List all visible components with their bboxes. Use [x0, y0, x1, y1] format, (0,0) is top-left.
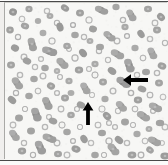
- grain-speck: [142, 38, 143, 39]
- grain-speck: [123, 11, 125, 13]
- grain-speck: [18, 61, 19, 62]
- arrow-left: [119, 72, 149, 88]
- blood-cell: [146, 126, 153, 132]
- grain-speck: [155, 15, 157, 17]
- grain-speck: [49, 33, 51, 35]
- grain-speck: [93, 68, 95, 70]
- grain-speck: [33, 72, 34, 73]
- grain-speck: [123, 129, 125, 131]
- grain-speck: [107, 155, 108, 156]
- ring-cell: [92, 72, 99, 79]
- grain-speck: [50, 144, 52, 146]
- grain-speck: [50, 61, 52, 63]
- grain-speck: [137, 94, 138, 95]
- grain-speck: [28, 70, 29, 71]
- grain-speck: [88, 65, 89, 66]
- grain-speck: [100, 101, 101, 102]
- grain-speck: [136, 39, 137, 40]
- grain-speck: [164, 37, 166, 39]
- grain-speck: [114, 143, 115, 144]
- grain-speck: [120, 32, 122, 34]
- grain-speck: [27, 83, 28, 84]
- ring-cell: [44, 8, 50, 14]
- grain-speck: [51, 126, 53, 128]
- ring-cell: [142, 138, 148, 144]
- grain-speck: [5, 89, 7, 91]
- ring-cell: [124, 33, 130, 39]
- ring-cell: [124, 140, 130, 146]
- grain-speck: [79, 156, 80, 157]
- blood-cell: [76, 10, 84, 17]
- grain-speck: [142, 27, 143, 28]
- grain-speck: [12, 56, 14, 58]
- grain-speck: [152, 123, 154, 125]
- scan-margin-bottom: [0, 161, 168, 165]
- grain-speck: [90, 11, 92, 13]
- blood-cell: [101, 96, 108, 102]
- grain-speck: [54, 127, 56, 129]
- ring-cell: [106, 138, 113, 145]
- ring-cell: [138, 152, 144, 158]
- grain-speck: [138, 58, 139, 59]
- grain-speck: [14, 104, 16, 106]
- grain-speck: [155, 12, 156, 13]
- grain-speck: [115, 107, 117, 109]
- grain-speck: [33, 22, 34, 23]
- grain-speck: [106, 44, 108, 46]
- ring-cell: [105, 57, 111, 63]
- grain-speck: [22, 156, 24, 158]
- grain-speck: [141, 47, 143, 49]
- grain-speck: [82, 145, 83, 146]
- grain-speck: [151, 33, 153, 35]
- grain-speck: [120, 68, 121, 69]
- grain-speck: [80, 63, 81, 64]
- grain-speck: [76, 65, 77, 66]
- blood-cell: [25, 6, 32, 12]
- grain-speck: [80, 148, 82, 150]
- grain-speck: [77, 83, 78, 84]
- grain-speck: [69, 19, 70, 20]
- grain-speck: [74, 118, 76, 120]
- grain-speck: [40, 6, 42, 8]
- grain-speck: [88, 77, 89, 78]
- blood-cell: [54, 68, 60, 74]
- grain-speck: [14, 151, 15, 152]
- grain-speck: [98, 91, 99, 92]
- grain-speck: [151, 118, 153, 120]
- grain-speck: [60, 145, 62, 147]
- grain-speck: [29, 35, 30, 36]
- grain-speck: [7, 13, 8, 14]
- grain-speck: [56, 11, 57, 12]
- grain-speck: [38, 85, 40, 87]
- ring-cell: [42, 124, 48, 130]
- grain-speck: [98, 148, 100, 150]
- grain-speck: [143, 65, 144, 66]
- blood-cell: [30, 76, 38, 82]
- grain-speck: [49, 93, 51, 95]
- grain-speck: [86, 45, 88, 47]
- blood-cell: [156, 120, 164, 126]
- grain-speck: [157, 113, 159, 115]
- grain-speck: [76, 77, 78, 79]
- grain-speck: [145, 110, 146, 111]
- grain-speck: [38, 95, 39, 96]
- ring-cell: [35, 88, 41, 94]
- ring-cell: [120, 17, 126, 23]
- blood-cell: [75, 67, 83, 74]
- grain-speck: [123, 9, 124, 10]
- grain-speck: [87, 81, 88, 82]
- blood-cell: [68, 90, 75, 96]
- grain-speck: [158, 36, 160, 38]
- ring-cell: [72, 55, 79, 62]
- grain-speck: [83, 44, 84, 45]
- ring-cell: [147, 92, 153, 98]
- ring-cell: [89, 92, 95, 98]
- blood-cell: [128, 152, 137, 159]
- ring-cell: [19, 16, 25, 22]
- ring-cell: [140, 55, 146, 61]
- grain-speck: [78, 135, 80, 137]
- ring-cell: [162, 40, 168, 46]
- grain-speck: [16, 60, 18, 62]
- grain-speck: [77, 48, 79, 50]
- grain-speck: [154, 128, 156, 130]
